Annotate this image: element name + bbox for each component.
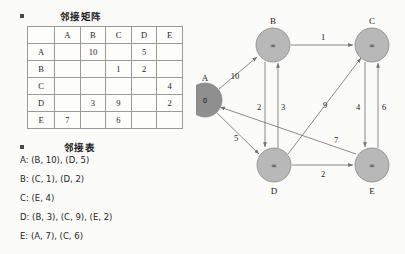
edge-e-a [220, 107, 356, 154]
node-a-value: 0 [203, 97, 207, 105]
adjacency-list: A: (B, 10), (D, 5) B: (C, 1), (D, 2) C: … [20, 156, 195, 251]
edge-weight-d-c: 9 [323, 100, 327, 110]
matrix-corner-cell [28, 27, 55, 44]
node-e-value: ∞ [369, 162, 375, 170]
table-header-row: A B C D E [28, 27, 183, 44]
matrix-cell [55, 61, 81, 78]
edge-weight-c-e: 4 [356, 102, 361, 112]
matrix-row-header: B [28, 61, 55, 78]
edge-weight-b-c: 1 [321, 32, 325, 42]
table-row: C 4 [28, 78, 183, 95]
matrix-cell [157, 61, 183, 78]
list-item: C: (E, 4) [20, 194, 195, 203]
matrix-row-header: D [28, 95, 55, 112]
matrix-cell [55, 95, 81, 112]
adjacency-matrix-title: 邻接矩阵 [60, 9, 101, 23]
matrix-cell [157, 112, 183, 129]
matrix-cell [55, 78, 81, 95]
graph-node-c[interactable]: ∞ C [355, 16, 389, 62]
list-item: A: (B, 10), (D, 5) [20, 156, 195, 165]
matrix-cell: 3 [80, 95, 106, 112]
list-item: E: (A, 7), (C, 6) [20, 232, 195, 241]
matrix-row-header: A [28, 44, 55, 61]
graph-node-e[interactable]: ∞ E [355, 148, 389, 196]
matrix-cell [106, 44, 132, 61]
square-bullet-icon [20, 145, 24, 149]
adjacency-matrix-table: A B C D E A 10 5 B [27, 26, 183, 129]
graph-node-d[interactable]: ∞ D [257, 148, 291, 196]
node-a-circle[interactable] [196, 83, 222, 117]
matrix-cell [106, 78, 132, 95]
node-c-value: ∞ [369, 42, 375, 50]
matrix-col-header: B [80, 27, 106, 44]
matrix-cell [131, 112, 157, 129]
weighted-digraph: 10 1 5 2 3 9 4 6 7 2 0 A [196, 0, 405, 254]
matrix-cell [80, 78, 106, 95]
node-d-value: ∞ [271, 162, 277, 170]
table-row: A 10 5 [28, 44, 183, 61]
list-item: B: (C, 1), (D, 2) [20, 175, 195, 184]
matrix-col-header: E [157, 27, 183, 44]
left-panel: 邻接矩阵 A B C D E A 10 5 [0, 0, 200, 254]
table-row: E 7 6 [28, 112, 183, 129]
matrix-cell: 4 [157, 78, 183, 95]
graph-edges [216, 45, 378, 165]
matrix-col-header: A [55, 27, 81, 44]
matrix-cell: 1 [106, 61, 132, 78]
matrix-cell: 9 [106, 95, 132, 112]
graph-node-a[interactable]: 0 A [196, 73, 222, 117]
node-d-label: D [271, 186, 278, 196]
slide-canvas: 邻接矩阵 A B C D E A 10 5 [0, 0, 405, 254]
matrix-cell: 6 [106, 112, 132, 129]
adjacency-matrix-heading: 邻接矩阵 [20, 9, 101, 23]
edge-weight-a-d: 5 [234, 133, 238, 143]
matrix-cell [55, 44, 81, 61]
matrix-cell [131, 95, 157, 112]
table-row: D 3 9 2 [28, 95, 183, 112]
graph-node-b[interactable]: ∞ B [256, 16, 290, 62]
matrix-col-header: D [131, 27, 157, 44]
graph-panel: 10 1 5 2 3 9 4 6 7 2 0 A [196, 0, 405, 254]
matrix-cell [80, 61, 106, 78]
adjacency-list-heading: 邻接表 [20, 140, 95, 154]
matrix-cell: 7 [55, 112, 81, 129]
edge-weight-d-e: 2 [321, 169, 325, 179]
list-item: D: (B, 3), (C, 9), (E, 2) [20, 213, 195, 222]
matrix-cell: 10 [80, 44, 106, 61]
matrix-row-header: E [28, 112, 55, 129]
adjacency-list-title: 邻接表 [64, 140, 95, 154]
node-a-label: A [202, 73, 209, 83]
node-e-label: E [369, 186, 375, 196]
matrix-cell [80, 112, 106, 129]
matrix-cell: 2 [157, 95, 183, 112]
edge-weight-e-c: 6 [382, 102, 386, 112]
edge-weight-e-a: 7 [334, 135, 338, 145]
matrix-cell [157, 44, 183, 61]
edge-weight-d-b: 3 [281, 102, 285, 112]
square-bullet-icon [20, 14, 24, 18]
matrix-cell: 2 [131, 61, 157, 78]
node-c-label: C [369, 16, 375, 26]
node-b-value: ∞ [270, 42, 276, 50]
table-row: B 1 2 [28, 61, 183, 78]
node-b-label: B [270, 16, 276, 26]
matrix-col-header: C [106, 27, 132, 44]
matrix-row-header: C [28, 78, 55, 95]
edge-weight-b-d: 2 [257, 102, 261, 112]
matrix-cell [131, 78, 157, 95]
edge-weight-a-b: 10 [231, 71, 240, 81]
matrix-cell: 5 [131, 44, 157, 61]
